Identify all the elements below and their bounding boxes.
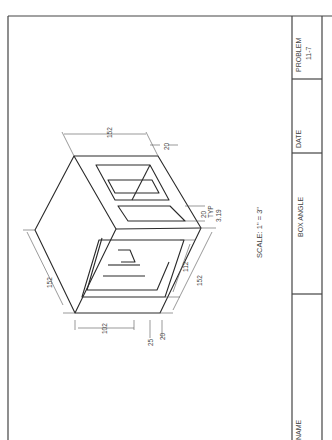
date-label: DATE xyxy=(295,130,302,148)
dim-bottom-25: 25 xyxy=(147,338,154,346)
dim-top-wall: 20 xyxy=(163,142,170,150)
problem-number: 11-7 xyxy=(305,46,312,60)
dim-left-height: 152 xyxy=(46,277,53,288)
dim-bottom-20: 20 xyxy=(159,332,166,340)
dim-inner-112: 112 xyxy=(182,261,189,272)
dim-top-width: 152 xyxy=(106,127,113,138)
drawing-canvas: PROBLEM 11-7 DATE BOX ANGLE NAME SCALE: … xyxy=(0,0,332,440)
name-label: NAME xyxy=(295,419,302,440)
title-block: PROBLEM 11-7 DATE BOX ANGLE NAME xyxy=(295,38,312,440)
dim-right-depth: 152 xyxy=(196,275,203,286)
problem-label: PROBLEM xyxy=(295,38,302,72)
dim-slot-offset: 3.19 xyxy=(215,209,222,222)
dim-bottom-102: 102 xyxy=(101,323,108,334)
scale-note: SCALE: 1" = 3" xyxy=(255,207,264,258)
dim-typ-note: TYP xyxy=(207,205,214,218)
dim-typ-thickness: 20 xyxy=(200,210,207,218)
isometric-box xyxy=(35,156,201,313)
dimension-lines xyxy=(23,132,216,338)
drawing-title: BOX ANGLE xyxy=(297,197,304,237)
drawing-sheet: PROBLEM 11-7 DATE BOX ANGLE NAME SCALE: … xyxy=(0,0,332,440)
